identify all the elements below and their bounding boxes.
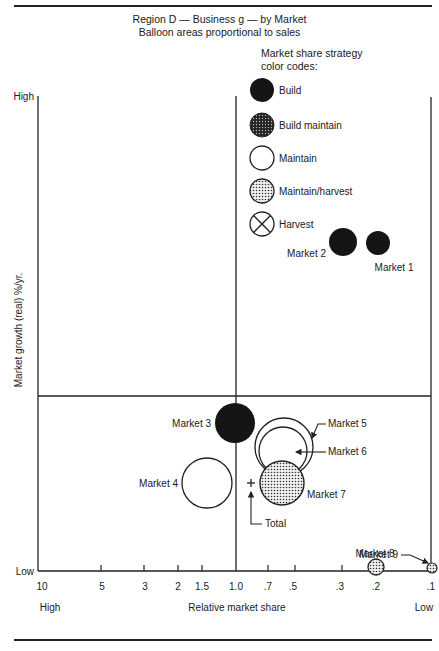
x-axis-title: Relative market share [188, 602, 286, 613]
legend-maintain-label: Maintain [279, 153, 317, 164]
bubbles: Market 2 Market 1 Market 3 Market 4 [139, 228, 437, 575]
tick-label: 3 [142, 581, 148, 592]
bubble-market-2 [329, 228, 357, 256]
legend-maintain-swatch [250, 146, 274, 170]
tick-label: .7 [264, 581, 273, 592]
y-high-label: High [13, 91, 34, 102]
x-high-label: High [40, 602, 61, 613]
tick-label: 5 [99, 581, 105, 592]
leader-market-9 [401, 555, 428, 563]
leader-market-5 [312, 424, 326, 438]
bubble-chart: 10 5 3 2 1.5 1.0 .7 .5 .3 .2 .1 High Rel… [0, 0, 439, 651]
tick-label: .1 [427, 581, 436, 592]
tick-label: 2 [175, 581, 181, 592]
bubble-market-8 [368, 559, 384, 575]
label-market-9: Market 9 [359, 549, 398, 560]
tick-label: .5 [289, 581, 298, 592]
legend-maintain-harvest-label: Maintain/harvest [279, 186, 353, 197]
label-market-3: Market 3 [172, 418, 211, 429]
tick-label: .2 [372, 581, 381, 592]
bubble-market-3 [215, 403, 255, 443]
legend-build-label: Build [279, 85, 301, 96]
legend-harvest-swatch [250, 212, 274, 236]
label-total: Total [265, 518, 286, 529]
bottom-rule [14, 639, 432, 641]
label-market-5: Market 5 [328, 418, 367, 429]
bubble-market-1 [366, 231, 390, 255]
tick-label: .3 [336, 581, 345, 592]
legend-title-line1: Market share strategy [261, 47, 363, 59]
legend-build-maintain-label: Build maintain [279, 120, 342, 131]
x-tick-labels: 10 5 3 2 1.5 1.0 .7 .5 .3 .2 .1 [36, 581, 435, 592]
y-axis-title: Market growth (real) %/yr. [13, 273, 24, 387]
tick-label: 10 [36, 581, 48, 592]
total-plus-marker [247, 479, 255, 487]
bubble-market-7 [260, 461, 304, 505]
bubble-market-4 [182, 458, 232, 508]
leader-total [251, 492, 262, 524]
legend-build-maintain-swatch [250, 113, 274, 137]
legend: Market share strategy color codes: Build… [250, 47, 363, 236]
legend-harvest-label: Harvest [279, 219, 314, 230]
label-market-7: Market 7 [307, 489, 346, 500]
legend-title-line2: color codes: [261, 60, 318, 72]
tick-label: 1.5 [195, 581, 209, 592]
label-market-1: Market 1 [375, 262, 414, 273]
tick-label: 1.0 [229, 581, 243, 592]
bubble-market-9 [427, 563, 437, 573]
x-ticks [101, 565, 342, 571]
label-market-4: Market 4 [139, 478, 178, 489]
label-market-6: Market 6 [328, 446, 367, 457]
legend-build-swatch [250, 78, 274, 102]
y-low-label: Low [16, 566, 35, 577]
x-low-label: Low [415, 602, 434, 613]
legend-maintain-harvest-swatch [250, 179, 274, 203]
axes [38, 96, 431, 571]
label-market-2: Market 2 [287, 248, 326, 259]
